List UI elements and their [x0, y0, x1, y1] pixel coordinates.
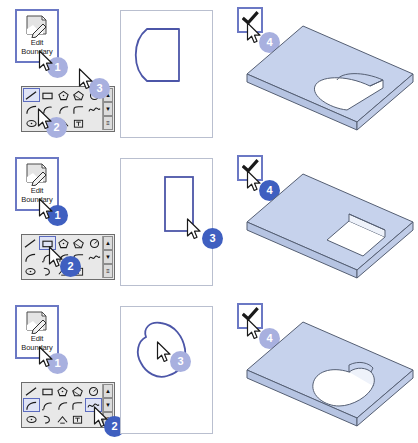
tool-partial-ellipse[interactable] — [40, 412, 55, 426]
sketch-canvas[interactable] — [120, 158, 213, 286]
tool-arc[interactable] — [23, 102, 40, 116]
model-preview-freeform — [245, 310, 415, 438]
tool-spline[interactable] — [87, 250, 103, 264]
model-preview-d-shape — [245, 14, 415, 142]
toolbar-scrollbar[interactable]: ▲ ▼ ≡ — [102, 236, 113, 278]
step-row-d-shape: Edit Boundary 1 — [0, 0, 418, 148]
tool-arc[interactable] — [23, 398, 40, 412]
tool-ellipse[interactable] — [23, 116, 40, 130]
model-preview-rectangle — [245, 162, 415, 290]
step-badge-3: 3 — [170, 351, 191, 372]
step-row-freeform: Edit Boundary 1 — [0, 296, 418, 443]
step-badge-1: 1 — [47, 205, 68, 226]
tool-spline[interactable] — [87, 102, 103, 116]
tool-pentagon[interactable] — [71, 236, 87, 250]
sketch-d-shape — [121, 11, 214, 139]
tool-text[interactable] — [70, 412, 85, 426]
tool-center-arc[interactable] — [39, 250, 56, 264]
tool-pentagon[interactable] — [71, 88, 87, 102]
tool-arc[interactable] — [23, 250, 39, 264]
toolbar-grip[interactable]: ≡ — [103, 264, 113, 278]
tool-center-arc[interactable] — [40, 102, 56, 116]
scroll-down-button[interactable]: ▼ — [103, 250, 113, 264]
scroll-up-button[interactable]: ▲ — [103, 384, 113, 398]
sheet-pencil-icon — [24, 14, 50, 38]
toolbar-grip[interactable]: ≡ — [103, 116, 113, 130]
step-row-rectangle: Edit Boundary 1 — [0, 148, 418, 296]
tool-polygon[interactable] — [56, 88, 72, 102]
edit-boundary-label: Edit Boundary — [21, 39, 52, 56]
tool-circle[interactable] — [85, 384, 102, 398]
tool-partial-ellipse[interactable] — [39, 264, 56, 278]
step-badge-2: 2 — [60, 256, 81, 277]
tool-blank-slot — [87, 116, 103, 130]
scroll-down-button[interactable]: ▼ — [103, 102, 113, 116]
sketch-canvas[interactable] — [120, 10, 213, 138]
tool-text[interactable] — [71, 116, 87, 130]
sketch-tools-toolbar[interactable]: ▲ ▼ ≡ — [21, 382, 115, 428]
tool-circle[interactable] — [87, 236, 103, 250]
scroll-down-button[interactable]: ▼ — [103, 398, 113, 412]
tool-blank-slot — [87, 264, 103, 278]
tool-spline[interactable] — [85, 398, 102, 412]
tool-fillet[interactable] — [70, 398, 85, 412]
tool-line[interactable] — [23, 384, 40, 398]
tool-line[interactable] — [23, 236, 39, 250]
illustration-sheet: Edit Boundary 1 — [0, 0, 418, 443]
tool-polygon[interactable] — [56, 236, 72, 250]
tool-polygon[interactable] — [55, 384, 70, 398]
edit-boundary-label: Edit Boundary — [21, 187, 52, 204]
tool-tangent-arc[interactable] — [55, 398, 70, 412]
edit-boundary-button[interactable]: Edit Boundary — [15, 157, 59, 211]
edit-boundary-button[interactable]: Edit Boundary — [15, 305, 59, 359]
sheet-pencil-icon — [24, 310, 50, 334]
sheet-pencil-icon — [24, 162, 50, 186]
tool-blank-slot — [85, 412, 102, 426]
tool-ellipse[interactable] — [23, 412, 40, 426]
tool-line[interactable] — [23, 88, 40, 102]
sketch-rectangle — [121, 159, 214, 287]
tool-fillet[interactable] — [71, 102, 87, 116]
edit-boundary-label: Edit Boundary — [21, 335, 52, 352]
edit-boundary-button[interactable]: Edit Boundary — [15, 9, 59, 63]
tool-rectangle[interactable] — [39, 236, 56, 250]
toolbar-icon-grid — [23, 384, 102, 426]
sketch-freeform-blob — [121, 307, 214, 435]
step-badge-2: 2 — [46, 117, 67, 138]
tool-ellipse[interactable] — [23, 264, 39, 278]
step-badge-1: 1 — [47, 353, 68, 374]
scroll-up-button[interactable]: ▲ — [103, 236, 113, 250]
tool-rectangle[interactable] — [40, 384, 55, 398]
tool-tangent-arc[interactable] — [56, 102, 72, 116]
sketch-canvas[interactable] — [120, 306, 213, 434]
tool-center-arc[interactable] — [40, 398, 55, 412]
step-badge-1: 1 — [47, 57, 68, 78]
step-badge-3: 3 — [89, 78, 110, 99]
tool-rectangle[interactable] — [40, 88, 56, 102]
tool-pentagon[interactable] — [70, 384, 85, 398]
tool-point[interactable] — [55, 412, 70, 426]
step-badge-3: 3 — [202, 228, 223, 249]
